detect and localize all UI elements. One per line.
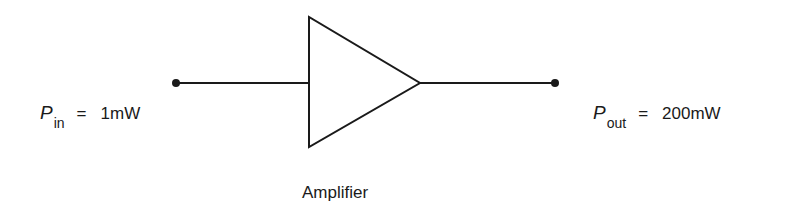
input-power-value: 1mW bbox=[101, 104, 141, 123]
amplifier-label: Amplifier bbox=[302, 183, 368, 203]
output-power-symbol: P bbox=[593, 102, 606, 123]
amplifier-triangle-icon bbox=[309, 17, 420, 147]
output-equals: = bbox=[638, 104, 648, 123]
output-power-value: 200mW bbox=[662, 104, 721, 123]
output-power-subscript: out bbox=[607, 115, 626, 131]
input-equals: = bbox=[77, 104, 87, 123]
input-power-symbol: P bbox=[40, 102, 53, 123]
input-power-label: Pin=1mW bbox=[40, 102, 140, 124]
output-power-label: Pout=200mW bbox=[593, 102, 721, 124]
input-power-subscript: in bbox=[54, 115, 65, 131]
input-terminal-dot bbox=[172, 79, 180, 87]
output-terminal-dot bbox=[551, 79, 559, 87]
